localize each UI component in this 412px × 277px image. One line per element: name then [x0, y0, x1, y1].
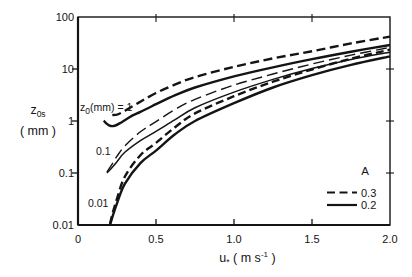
curve-z0-0-01mm-A-0-3 — [110, 50, 390, 224]
x-tick-label: 2.0 — [370, 232, 410, 246]
y-tick-label: 10 — [34, 62, 74, 76]
annotation-z0-0.01mm: 0.01 — [88, 197, 108, 209]
annotation-z0-1mm: z0(mm) = 1 — [80, 101, 132, 117]
y-tick-label: 100 — [34, 10, 74, 24]
curve-z0-1mm-A-0-2 — [104, 45, 390, 126]
y-tick-label: 0.01 — [34, 218, 74, 232]
x-tick-label: 0.5 — [136, 232, 176, 246]
curve-z0-0-01mm-A-0-2 — [110, 56, 390, 225]
chart-figure: A0.30.2 z0s ( mm ) u* ( m s-1 ) z0(mm) =… — [0, 0, 412, 277]
x-tick-label: 0 — [58, 232, 98, 246]
annotation-z0-0.1mm: 0.1 — [96, 145, 111, 157]
legend-label-0.2: 0.2 — [361, 199, 376, 211]
legend-title: A — [361, 165, 369, 177]
x-tick-label: 1.0 — [214, 232, 254, 246]
y-tick-label: 0.1 — [34, 166, 74, 180]
curve-z0-1mm-A-0-3 — [112, 37, 390, 116]
y-tick-label: 1 — [34, 114, 74, 128]
x-tick-label: 1.5 — [292, 232, 332, 246]
x-axis-label: u* ( m s-1 ) — [195, 250, 300, 267]
legend-label-0.3: 0.3 — [361, 187, 376, 199]
